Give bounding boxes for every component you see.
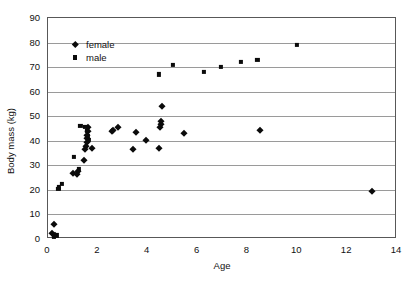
x-tick-label: 12 (341, 244, 352, 255)
legend-item-male: male (73, 51, 115, 64)
x-tick-label: 14 (391, 244, 402, 255)
x-axis-title: Age (214, 260, 231, 271)
legend-label: male (84, 51, 107, 64)
scatter-plot-figure: 0102030405060708090 02468101214 Body mas… (0, 0, 410, 282)
x-tick-label: 10 (291, 244, 302, 255)
square-marker-icon (73, 55, 84, 59)
x-tick-label: 8 (244, 244, 249, 255)
legend-label: female (84, 38, 115, 51)
x-tick-label: 4 (144, 244, 149, 255)
y-axis-title: Body mass (kg) (5, 108, 16, 174)
x-tick-label: 2 (94, 244, 99, 255)
legend-item-female: female (73, 38, 115, 51)
x-tick-label: 0 (44, 244, 49, 255)
x-tick-label: 6 (194, 244, 199, 255)
legend: femalemale (73, 38, 115, 64)
diamond-marker-icon (73, 42, 84, 47)
x-axis-tick-labels: 02468101214 (0, 0, 410, 282)
